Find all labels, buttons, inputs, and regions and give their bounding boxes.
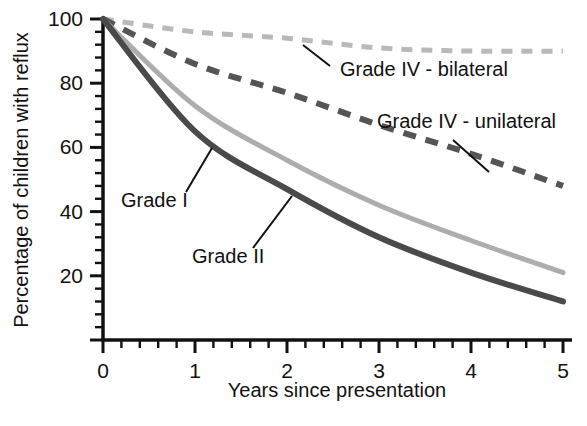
x-tick-label: 5 — [557, 359, 569, 382]
series-line-grade-iv-bilateral — [103, 19, 563, 51]
annotation-leader-line — [303, 45, 330, 66]
y-tick-label: 60 — [60, 135, 83, 158]
y-tick-label: 20 — [60, 264, 83, 287]
annotation-leader-line — [186, 148, 212, 192]
annotation-leader-line — [253, 196, 292, 248]
x-axis-major-ticks — [103, 340, 563, 353]
annotation-leader-line — [453, 140, 489, 172]
y-axis-title: Percentage of children with reflux — [10, 32, 32, 328]
y-tick-label: 80 — [60, 71, 83, 94]
annotation-label: Grade I — [121, 189, 188, 211]
x-tick-label: 4 — [465, 359, 477, 382]
y-axis-major-ticks — [90, 19, 103, 340]
x-tick-label: 0 — [97, 359, 109, 382]
annotation-label: Grade IV - unilateral — [377, 110, 556, 132]
y-tick-label: 40 — [60, 200, 83, 223]
x-axis-title: Years since presentation — [228, 379, 446, 401]
series-annotations: Grade IV - bilateralGrade IV - unilatera… — [121, 45, 556, 267]
y-axis-tick-labels: 20406080100 — [48, 7, 83, 287]
chart-container: 20406080100 012345 Grade IV - bilateralG… — [0, 0, 587, 426]
y-tick-label: 100 — [48, 7, 83, 30]
annotation-label: Grade II — [192, 245, 264, 267]
x-tick-label: 1 — [189, 359, 201, 382]
annotation-label: Grade IV - bilateral — [340, 58, 508, 80]
reflux-resolution-line-chart: 20406080100 012345 Grade IV - bilateralG… — [0, 0, 587, 426]
